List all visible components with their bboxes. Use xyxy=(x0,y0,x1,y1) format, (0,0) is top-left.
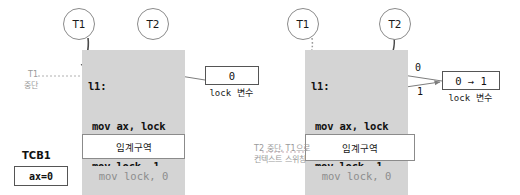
lock-variable-box: 0 xyxy=(205,66,259,85)
t1-suspend-annotation-line1: T1 xyxy=(10,70,38,81)
t1-suspend-annotation: T1 중단 xyxy=(10,70,38,91)
thread-bubble-t1: T1 xyxy=(63,8,95,40)
lock-variable-value: 0 xyxy=(229,70,235,82)
t1-suspend-annotation-line2: 중단 xyxy=(10,81,38,92)
code-line-label: l1: xyxy=(305,80,408,93)
tcb1-register-box: ax=0 xyxy=(14,166,68,186)
critical-section-box: 임계구역 xyxy=(305,134,415,161)
panel-right-step2: T1 T2 l1: mov ax, lock mov lock, 1 cmp a… xyxy=(260,0,520,195)
panel-left-step1: T1 T2 l1: mov ax, lock mov lock, 1 cmp a… xyxy=(0,0,260,195)
thread-bubble-t1-label: T1 xyxy=(72,18,85,30)
lock-write-value-label: 1 xyxy=(417,86,423,97)
unlock-bar: mov lock, 0 xyxy=(82,166,185,186)
thread-bubble-t1: T1 xyxy=(287,8,319,40)
thread-bubble-t2-label: T2 xyxy=(146,18,159,30)
context-switch-annotation-line2: 컨텍스트 스위칭 xyxy=(254,155,318,166)
critical-section-label: 임계구역 xyxy=(116,140,152,154)
critical-section-label: 임계구역 xyxy=(342,141,378,155)
thread-bubble-t1-label: T1 xyxy=(296,18,309,30)
context-switch-annotation-line1: T2 중단, T1으로 xyxy=(254,144,318,155)
lock-variable-box: 0 → 1 xyxy=(442,71,500,90)
thread-bubble-t2: T2 xyxy=(137,8,169,40)
thread-bubble-t2-label: T2 xyxy=(388,18,401,30)
tcb1-register-value: ax=0 xyxy=(29,171,53,182)
thread-bubble-t2: T2 xyxy=(379,8,411,40)
code-line-mov-ax-lock: mov ax, lock xyxy=(82,120,185,133)
lock-variable-caption: lock 변수 xyxy=(205,86,257,99)
unlock-line-label: mov lock, 0 xyxy=(322,170,392,182)
unlock-line-label: mov lock, 0 xyxy=(99,170,169,182)
tcb1-label: TCB1 xyxy=(22,150,51,161)
code-line-label: l1: xyxy=(82,80,185,93)
lock-variable-value: 0 → 1 xyxy=(455,75,487,87)
lock-variable-caption: lock 변수 xyxy=(440,91,500,104)
context-switch-annotation: T2 중단, T1으로 컨텍스트 스위칭 xyxy=(254,144,318,165)
unlock-bar: mov lock, 0 xyxy=(305,166,408,186)
critical-section-box: 임계구역 xyxy=(82,134,185,159)
code-line-mov-ax-lock: mov ax, lock xyxy=(305,120,408,133)
lock-read-value-label: 0 xyxy=(415,62,421,73)
diagram-canvas: T1 T2 l1: mov ax, lock mov lock, 1 cmp a… xyxy=(0,0,520,195)
